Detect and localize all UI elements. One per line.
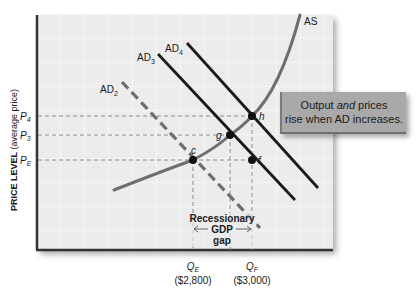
label-as: AS <box>304 16 318 27</box>
xtick-qe-value: ($2,800) <box>174 275 211 286</box>
label-h: h <box>259 111 265 122</box>
label-c: c <box>191 145 196 156</box>
xtick-qf-value: ($3,000) <box>233 275 270 286</box>
xtick-qe: QE <box>187 261 200 273</box>
gap-label-line1: Recessionary <box>189 213 254 224</box>
gap-label-line2: GDP <box>211 224 233 235</box>
point-g <box>226 131 234 139</box>
callout-box: Output and prices rise when AD increases… <box>280 92 406 134</box>
callout-line2: rise when AD increases. <box>282 112 406 126</box>
point-h <box>248 112 256 120</box>
callout-line1: Output and prices <box>282 98 406 112</box>
ad-as-chart: c g h f AS AD2 AD3 AD4 P4 P3 PE QE ($2,8… <box>0 0 420 294</box>
label-g: g <box>216 130 222 141</box>
point-c <box>189 156 197 164</box>
recessionary-gap-annotation: Recessionary GDP gap <box>188 213 256 247</box>
gap-label-line3: gap <box>213 235 231 246</box>
point-f <box>248 156 256 164</box>
xtick-qf: QF <box>246 261 259 273</box>
y-axis-label: PRICE LEVEL (average price) <box>9 50 23 250</box>
